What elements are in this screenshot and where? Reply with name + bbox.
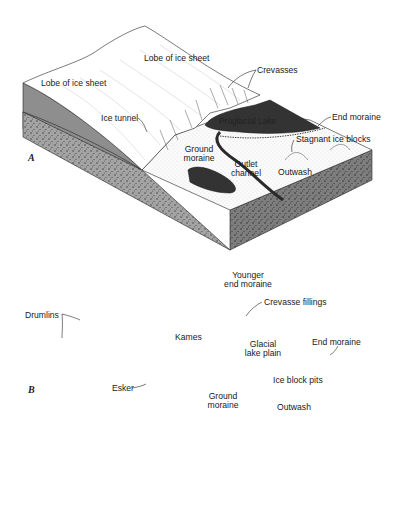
leader-lines	[0, 0, 400, 509]
